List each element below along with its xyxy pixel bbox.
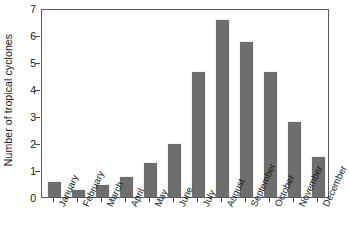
- y-axis-title: Number of tropical cyclones: [0, 0, 16, 200]
- x-axis-tick-labels: JanuaryFebruaryMarchAprilMayJuneJulyAugu…: [0, 202, 334, 251]
- x-tick-mark: [317, 198, 318, 202]
- bar: [239, 41, 254, 197]
- plot-area: [41, 9, 329, 198]
- x-tick-mark: [245, 198, 246, 202]
- bar: [167, 143, 182, 197]
- x-tick-mark: [221, 198, 222, 202]
- y-tick-mark: [35, 36, 40, 37]
- x-tick-mark: [125, 198, 126, 202]
- x-tick-mark: [269, 198, 270, 202]
- bar: [215, 19, 230, 197]
- bar: [191, 71, 206, 197]
- x-tick-mark: [173, 198, 174, 202]
- bars-layer: [42, 10, 328, 197]
- y-tick-mark: [35, 144, 40, 145]
- y-tick-mark: [35, 171, 40, 172]
- x-tick-mark: [197, 198, 198, 202]
- x-tick-mark: [53, 198, 54, 202]
- y-tick-label: 7: [30, 4, 36, 15]
- y-tick-mark: [35, 117, 40, 118]
- x-tick-mark: [293, 198, 294, 202]
- y-tick-mark: [35, 90, 40, 91]
- x-tick-mark: [77, 198, 78, 202]
- y-axis-title-text: Number of tropical cyclones: [2, 34, 14, 166]
- y-tick-mark: [35, 63, 40, 64]
- x-tick-mark: [101, 198, 102, 202]
- x-tick-mark: [149, 198, 150, 202]
